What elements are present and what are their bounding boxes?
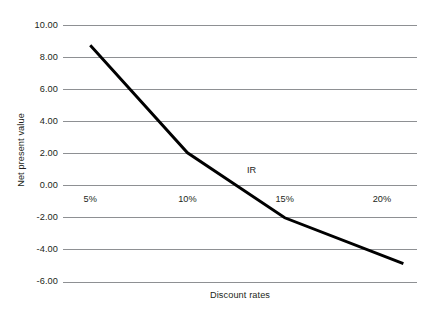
y-tick-label: -2.00 [37, 212, 58, 222]
x-axis-title: Discount rates [210, 290, 270, 300]
y-tick-label: 8.00 [40, 52, 58, 62]
y-tick-label: 4.00 [40, 116, 58, 126]
x-tick-label: 5% [83, 194, 96, 204]
chart-canvas: 10.00 8.00 6.00 4.00 2.00 0.00 -2.00 -4.… [0, 0, 433, 317]
y-tick-label: -4.00 [37, 244, 58, 254]
gridlines [63, 25, 417, 282]
y-tick-label: 6.00 [40, 84, 58, 94]
y-axis-tick-labels: 10.00 8.00 6.00 4.00 2.00 0.00 -2.00 -4.… [35, 20, 59, 287]
x-tick-label: 10% [178, 194, 197, 204]
npv-profile-chart: 10.00 8.00 6.00 4.00 2.00 0.00 -2.00 -4.… [0, 0, 433, 317]
irr-annotation-label: IR [247, 165, 257, 175]
y-tick-label: -6.00 [37, 276, 58, 286]
x-tick-label: 20% [373, 194, 392, 204]
npv-series-line [90, 45, 403, 263]
y-tick-label: 2.00 [40, 148, 58, 158]
x-axis-tick-labels: 5% 10% 15% 20% [83, 194, 391, 204]
y-tick-label: 0.00 [40, 180, 58, 190]
x-tick-label: 15% [275, 194, 294, 204]
y-axis-title: Net present value [16, 113, 26, 187]
y-tick-label: 10.00 [35, 20, 59, 30]
